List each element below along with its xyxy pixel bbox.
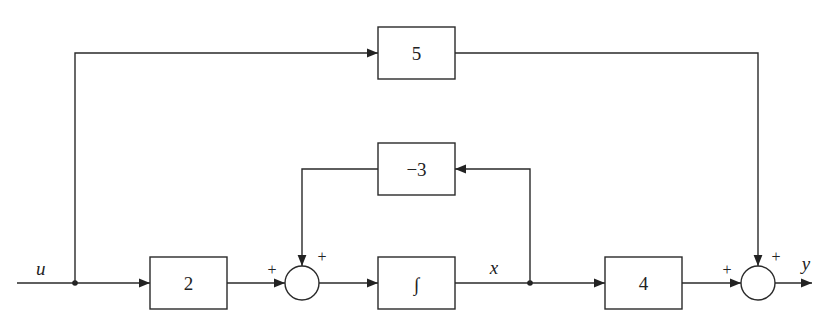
signal-u-label: u (36, 258, 46, 279)
summing-junction-1 (285, 266, 319, 300)
feedback-wire-out (302, 169, 378, 266)
block-input-gain-label: 2 (184, 273, 194, 294)
block-feedback-gain-label: −3 (406, 159, 426, 180)
sum2-sign-top: + (771, 248, 780, 265)
sum1-sign-top: + (317, 248, 326, 265)
feedforward-wire-in (75, 53, 378, 283)
block-diagram: u 5 2 + + ∫ x −3 4 + + y (0, 0, 824, 329)
block-feedforward-gain-label: 5 (412, 43, 422, 64)
signal-x-label: x (489, 257, 499, 278)
block-output-gain-label: 4 (639, 273, 649, 294)
sum2-sign-left: + (722, 261, 731, 278)
summing-junction-2 (741, 266, 775, 300)
signal-y-label: y (800, 253, 811, 274)
feedforward-wire-out (455, 53, 758, 266)
sum1-sign-left: + (267, 261, 276, 278)
